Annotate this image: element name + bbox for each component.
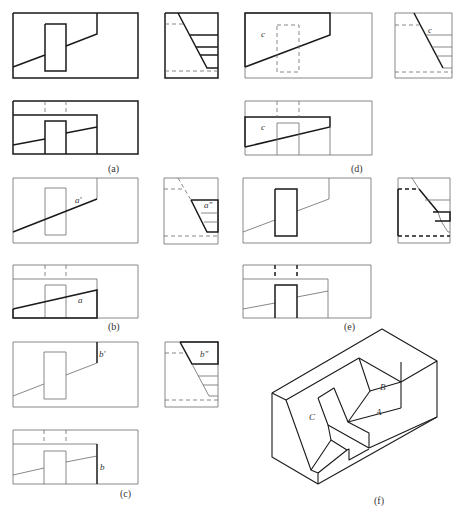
caption-b: (b) (108, 321, 120, 333)
edge-line (13, 199, 97, 232)
edge-line (243, 178, 371, 243)
isometric-edge (272, 329, 437, 484)
edge-line (414, 13, 443, 68)
view-c-front (13, 342, 138, 407)
edge-line (243, 303, 275, 309)
view-b-top (13, 265, 138, 318)
face-label-f-B: B (380, 382, 386, 392)
face-label-d-front-c: c (261, 29, 265, 39)
caption-a: (a) (108, 163, 119, 175)
edge-line (275, 285, 297, 318)
face-label-f-C: C (309, 412, 316, 422)
view-a-front (13, 13, 138, 78)
edge-line (66, 127, 97, 133)
edge-line (13, 290, 97, 318)
view-b-front (13, 178, 138, 243)
isometric-edge (328, 425, 369, 448)
edge-line (297, 178, 329, 211)
face-labels: ccca'a"ab'b"bBAC (75, 25, 432, 472)
caption-e: (e) (344, 321, 355, 333)
view-e-front (243, 178, 371, 243)
edge-line (13, 139, 45, 145)
edge-line (297, 291, 328, 297)
view-c-side (165, 342, 218, 407)
view-d-front (245, 13, 372, 78)
view-d-side (395, 13, 452, 78)
edge-line (192, 364, 218, 396)
face-label-c-side-b2: b" (200, 349, 209, 359)
edge-line (438, 212, 441, 221)
edge-line (13, 265, 138, 318)
edge-line (13, 384, 44, 396)
view-e-top (243, 265, 371, 318)
edge-line (165, 342, 218, 407)
edge-line (398, 178, 450, 243)
view-c-top (13, 430, 138, 484)
view-b-side (164, 178, 218, 244)
face-label-b-side-a2: a" (204, 200, 213, 210)
isometric-edge (401, 361, 437, 382)
edge-line (44, 352, 66, 399)
edge-line (243, 265, 371, 318)
view-e-side (398, 178, 450, 243)
view-a-top (13, 101, 138, 154)
caption-d: (d) (351, 163, 363, 175)
isometric-edge (331, 440, 369, 460)
caption-f: (f) (374, 495, 384, 507)
face-label-d-side-c: c (428, 25, 432, 35)
edge-line (44, 451, 66, 484)
edge-line (275, 189, 297, 236)
edge-line (13, 101, 138, 154)
edge-line (66, 456, 97, 462)
face-label-d-top-c: c (261, 122, 265, 132)
face-label-b-front-a1: a' (75, 195, 83, 205)
orthographic-projection-figure: ccca'a"ab'b"bBAC (a)(d)(b)(e)(c)(f) (0, 0, 461, 512)
face-label-c-top-b: b (100, 462, 105, 472)
drawing-canvas: ccca'a"ab'b"bBAC (a)(d)(b)(e)(c)(f) (0, 0, 461, 512)
edge-line (412, 178, 419, 189)
edge-line (13, 178, 138, 243)
caption-c: (c) (120, 488, 131, 500)
edge-line (180, 342, 218, 364)
edge-line (13, 468, 44, 475)
isometric-edge (318, 388, 348, 422)
edge-line (45, 24, 66, 71)
view-a-side (165, 13, 218, 78)
edge-line (441, 221, 450, 232)
edge-line (45, 121, 66, 154)
isometric-view-f (272, 329, 437, 484)
edge-line (45, 188, 66, 235)
edge-line (178, 13, 218, 68)
orthographic-views (13, 13, 452, 484)
edge-line (164, 178, 218, 244)
face-label-b-top-a: a (78, 295, 83, 305)
edge-line (66, 13, 97, 46)
edge-line (13, 430, 138, 484)
edge-line (433, 212, 450, 221)
panel-captions: (a)(d)(b)(e)(c)(f) (108, 163, 384, 507)
edge-line (13, 342, 138, 407)
isometric-edge (311, 398, 331, 470)
face-label-f-A: A (375, 407, 382, 417)
isometric-edge (272, 358, 359, 400)
edge-line (13, 13, 138, 78)
edge-line (66, 363, 97, 375)
edge-line (245, 117, 330, 147)
edge-line (13, 55, 45, 67)
edge-line (419, 189, 438, 212)
face-label-c-front-b1: b' (99, 349, 107, 359)
edge-line (245, 13, 372, 78)
edge-line (245, 13, 330, 67)
isometric-edge (369, 417, 437, 448)
edge-line (243, 220, 275, 232)
